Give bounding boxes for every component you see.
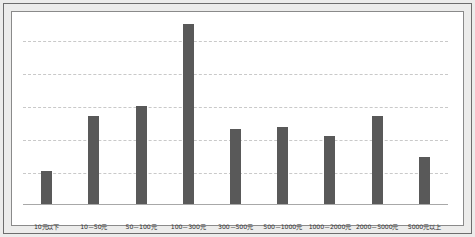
x-tick-4: 300－500元 [212, 215, 259, 233]
x-tick-label: 1000－2000元 [309, 223, 352, 230]
bar[interactable] [230, 129, 241, 204]
bar[interactable] [372, 116, 383, 204]
x-tick-label: 10元以下 [34, 223, 59, 230]
bar-slot [23, 16, 70, 204]
x-tick-label: 100－300元 [171, 223, 206, 230]
x-axis-labels: 10元以下 10－50元 50－100元 100－300元 300－500元 5… [23, 215, 448, 233]
chart-panel: 10元以下 10－50元 50－100元 100－300元 300－500元 5… [11, 11, 464, 226]
x-tick-5: 500－1000元 [259, 215, 306, 233]
bar-slot [70, 16, 117, 204]
x-tick-7: 2000－5000元 [354, 215, 401, 233]
bar-slot [117, 16, 164, 204]
x-tick-1: 10－50元 [70, 215, 117, 233]
bar-slot [354, 16, 401, 204]
plot-area [23, 16, 448, 205]
bar[interactable] [183, 24, 194, 204]
x-tick-label: 50－100元 [126, 223, 157, 230]
bar-slot [212, 16, 259, 204]
bar-slot [401, 16, 448, 204]
bar[interactable] [88, 116, 99, 204]
bar-slot [259, 16, 306, 204]
x-tick-label: 500－1000元 [263, 223, 302, 230]
bar-slot [306, 16, 353, 204]
chart-page: 10元以下 10－50元 50－100元 100－300元 300－500元 5… [0, 0, 475, 237]
x-tick-label: 300－500元 [218, 223, 253, 230]
x-tick-0: 10元以下 [23, 215, 70, 233]
bar[interactable] [419, 157, 430, 204]
x-tick-label: 10－50元 [80, 223, 107, 230]
x-tick-6: 1000－2000元 [306, 215, 353, 233]
bar[interactable] [324, 136, 335, 204]
x-axis-line [23, 204, 448, 205]
x-tick-label: 2000－5000元 [356, 223, 399, 230]
x-tick-8: 5000元以上 [401, 215, 448, 233]
bars-layer [23, 16, 448, 204]
bar[interactable] [41, 171, 52, 204]
x-tick-label: 5000元以上 [408, 223, 441, 230]
x-tick-2: 50－100元 [117, 215, 164, 233]
bar-slot [165, 16, 212, 204]
x-tick-3: 100－300元 [165, 215, 212, 233]
bar[interactable] [136, 106, 147, 204]
bar[interactable] [277, 127, 288, 204]
